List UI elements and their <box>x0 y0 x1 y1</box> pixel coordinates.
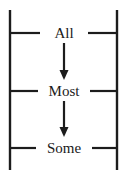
level-row-all: All <box>10 25 117 41</box>
level-row-some: Some <box>10 140 117 156</box>
node-label-most: Most <box>49 83 81 99</box>
arrow-all-to-most <box>60 43 69 80</box>
level-row-most: Most <box>10 83 117 99</box>
node-label-some: Some <box>47 140 82 156</box>
arrow-head-most-to-some <box>60 127 69 137</box>
arrow-most-to-some <box>60 101 69 137</box>
diagram-canvas: All Most Some <box>0 0 128 177</box>
node-label-all: All <box>54 25 73 41</box>
arrow-head-all-to-most <box>60 70 69 80</box>
quantifier-hierarchy-diagram: All Most Some <box>0 0 128 177</box>
